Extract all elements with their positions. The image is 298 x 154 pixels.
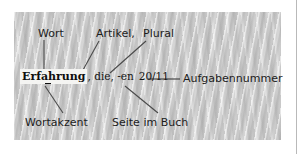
- label-wortakzent: Wortakzent: [25, 116, 88, 129]
- label-aufgabennummer: Aufgabennummer: [183, 72, 282, 85]
- label-wort: Wort: [38, 27, 64, 40]
- page-edge-rule: [296, 0, 297, 154]
- dictionary-entry-line: Erfahrung , die, -en 20/11: [20, 69, 169, 86]
- entry-headword: Erfahrung: [20, 69, 87, 84]
- label-plural: Plural: [143, 27, 174, 40]
- entry-grammar-info: , die, -en: [88, 70, 134, 82]
- vocabulary-entry-diagram: Wort Artikel, Plural Aufgabennummer Wort…: [0, 0, 298, 154]
- entry-page-reference: 20/11: [139, 70, 169, 82]
- label-artikel: Artikel,: [96, 27, 135, 40]
- word-accent-mark: [45, 83, 51, 84]
- label-seite-im-buch: Seite im Buch: [112, 116, 188, 129]
